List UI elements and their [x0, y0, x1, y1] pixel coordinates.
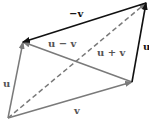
label-u-left: u: [3, 79, 10, 89]
label-u-plus-v: u + v: [97, 48, 125, 58]
vector-v-bottom-arrow: [8, 82, 132, 118]
label-u-right: u: [143, 42, 149, 52]
label-v-bottom: v: [74, 106, 80, 116]
vector-neg-v-arrow: [23, 3, 146, 42]
vector-diagram: u v u + v u − v −v u: [0, 0, 149, 125]
label-neg-v: −v: [69, 9, 83, 19]
label-u-minus-v: u − v: [48, 39, 76, 49]
vector-u-plus-v-arrow: [8, 3, 146, 118]
